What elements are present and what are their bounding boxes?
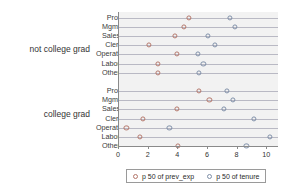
plot-area <box>118 12 278 146</box>
data-point-tenure <box>230 98 235 103</box>
data-point-tenure <box>222 107 227 112</box>
x-axis-line <box>118 146 278 147</box>
gridline <box>119 27 278 28</box>
x-tick-label: 0 <box>116 150 120 159</box>
gridline <box>119 100 278 101</box>
legend-label-tenure: p 50 of tenure <box>216 173 259 180</box>
x-tick <box>177 146 178 149</box>
data-point-prev_exp <box>155 70 160 75</box>
x-tick-label: 4 <box>175 150 179 159</box>
data-point-tenure <box>225 88 230 93</box>
group-label-not-college-grad: not college grad <box>30 44 91 54</box>
data-point-prev_exp <box>140 116 145 121</box>
legend-entry-prev_exp[interactable]: p 50 of prev_exp <box>133 173 194 180</box>
legend-marker-prev_exp <box>133 174 138 179</box>
data-point-tenure <box>205 33 210 38</box>
data-point-tenure <box>196 70 201 75</box>
data-point-prev_exp <box>182 24 187 29</box>
legend-label-prev_exp: p 50 of prev_exp <box>142 173 194 180</box>
chart-legend: p 50 of prev_expp 50 of tenure <box>126 169 266 183</box>
x-tick-label: 6 <box>205 150 209 159</box>
gridline <box>119 128 278 129</box>
x-tick <box>237 146 238 149</box>
data-point-tenure <box>228 15 233 20</box>
data-point-tenure <box>167 125 172 130</box>
data-point-prev_exp <box>174 107 179 112</box>
data-point-prev_exp <box>137 134 142 139</box>
data-point-prev_exp <box>207 98 212 103</box>
gridline <box>119 137 278 138</box>
data-point-prev_exp <box>124 125 129 130</box>
data-point-tenure <box>213 43 218 48</box>
gridline <box>119 18 278 19</box>
gridline <box>119 64 278 65</box>
group-label-college-grad: college grad <box>44 109 90 119</box>
data-point-tenure <box>251 116 256 121</box>
x-tick-label: 8 <box>235 150 239 159</box>
category-label-operat: Operat. <box>96 50 120 58</box>
x-tick-label: 10 <box>262 150 270 159</box>
gridline <box>119 45 278 46</box>
legend-marker-tenure <box>207 174 212 179</box>
x-tick <box>266 146 267 149</box>
data-point-tenure <box>268 134 273 139</box>
data-point-prev_exp <box>196 88 201 93</box>
x-tick <box>207 146 208 149</box>
plot-inner <box>119 12 278 146</box>
x-tick <box>148 146 149 149</box>
data-point-prev_exp <box>186 15 191 20</box>
legend-entry-tenure[interactable]: p 50 of tenure <box>207 173 259 180</box>
category-label-operat: Operat. <box>96 124 120 132</box>
data-point-prev_exp <box>174 52 179 57</box>
x-tick-label: 2 <box>146 150 150 159</box>
data-point-prev_exp <box>146 43 151 48</box>
data-point-prev_exp <box>155 61 160 66</box>
data-point-prev_exp <box>173 33 178 38</box>
data-point-tenure <box>195 52 200 57</box>
gridline <box>119 109 278 110</box>
chart-container: not college grad college grad ProfMgmtSa… <box>0 0 298 190</box>
gridline <box>119 36 278 37</box>
data-point-tenure <box>232 24 237 29</box>
x-tick <box>118 146 119 149</box>
data-point-tenure <box>201 61 206 66</box>
